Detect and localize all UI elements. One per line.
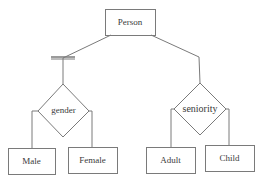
seniority-to-adult-line — [171, 109, 174, 147]
seniority-stem-line — [199, 57, 200, 83]
seniority-label: seniority — [174, 103, 226, 114]
person-label: Person — [105, 17, 155, 27]
adult-label: Adult — [146, 155, 195, 165]
seniority-to-child-line — [226, 109, 229, 145]
gender-label: gender — [38, 105, 89, 115]
gender-to-female-line — [89, 111, 92, 147]
male-label: Male — [8, 156, 55, 166]
person-to-seniority-line — [151, 35, 199, 57]
child-label: Child — [205, 153, 254, 163]
gender-to-male-line — [32, 111, 38, 148]
female-label: Female — [68, 155, 117, 165]
person-to-gender-line — [63, 35, 111, 58]
